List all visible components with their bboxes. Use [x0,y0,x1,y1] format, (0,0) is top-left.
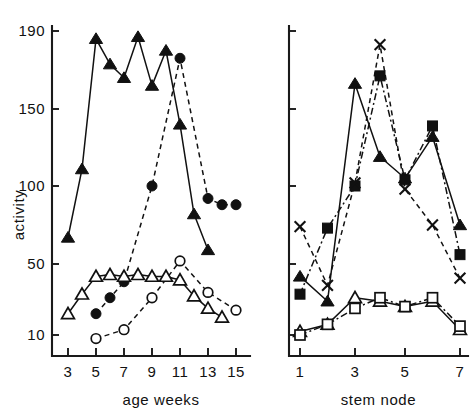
data-point-filled-triangle [293,270,306,281]
data-point-open-triangle [349,292,362,303]
data-point-filled-circle [91,309,101,319]
right-series-markers-filled-square [295,71,465,299]
data-point-cross [322,280,333,291]
data-point-open-square [323,319,333,329]
data-point-filled-circle [175,53,185,63]
data-point-filled-circle [147,181,157,191]
data-point-open-square [350,303,360,313]
data-point-open-triangle [104,268,117,279]
data-point-filled-triangle [131,31,144,42]
left-y-tick-label: 10 [27,326,45,343]
data-point-open-triangle [132,268,145,279]
right-series-markers-open-square [295,293,465,340]
data-point-filled-triangle [159,45,172,56]
data-point-filled-square [375,71,385,81]
left-y-tick-label: 190 [18,22,45,39]
data-point-filled-triangle [187,208,200,219]
left-x-axis-title: age weeks [122,391,199,408]
left-x-tick-label: 7 [120,363,129,380]
right-x-tick-label: 5 [401,363,410,380]
data-point-filled-triangle [75,163,88,174]
left-x-tick-label: 11 [172,363,189,380]
left-x-tick-label: 5 [92,363,101,380]
data-point-filled-triangle [348,78,361,89]
left-x-tick-label: 13 [199,363,217,380]
left-x-tick-label: 3 [64,363,73,380]
data-point-open-triangle [62,308,75,319]
data-point-filled-triangle [201,244,214,255]
data-point-open-circle [119,325,129,335]
data-point-filled-circle [105,293,115,303]
data-point-filled-square [323,223,333,233]
data-point-cross [427,220,438,231]
data-point-open-square [295,330,305,340]
data-point-filled-triangle [373,151,386,162]
data-point-filled-triangle [173,118,186,129]
data-point-cross [455,273,466,284]
data-point-filled-triangle [453,219,466,230]
chart-figure: activity 10501001501903579111315age week… [0,0,473,416]
left-y-tick-label: 150 [18,100,45,117]
right-x-tick-label: 3 [351,363,360,380]
data-point-filled-square [428,121,438,131]
left-series-line-filled-triangle [68,37,208,250]
data-point-filled-triangle [89,33,102,44]
data-point-filled-circle [203,193,213,203]
right-series-line-filled-square [300,76,460,294]
data-point-filled-square [400,175,410,185]
right-x-tick-label: 7 [456,363,465,380]
data-point-filled-square [455,250,465,260]
y-axis-label-group: activity [10,190,27,241]
data-point-open-circle [203,288,213,298]
chart-svg: activity 10501001501903579111315age week… [0,0,473,416]
data-point-open-circle [175,256,185,266]
data-point-filled-circle [231,200,241,210]
data-point-open-square [400,302,410,312]
data-point-filled-triangle [103,58,116,69]
data-point-filled-circle [217,200,227,210]
right-panel: 1357stem node [289,26,468,408]
right-x-axis-title: stem node [341,391,416,408]
right-series-line-filled-triangle [300,84,460,302]
data-point-open-square [455,321,465,331]
left-y-tick-label: 50 [27,255,45,272]
data-point-filled-triangle [61,231,74,242]
left-panel: 10501001501903579111315age weeks [18,22,250,408]
right-series-markers-filled-triangle [293,78,466,306]
data-point-filled-triangle [145,80,158,91]
y-axis-label: activity [10,190,27,241]
data-point-open-circle [91,334,101,344]
right-x-tick-label: 1 [296,363,305,380]
data-point-cross [295,221,306,232]
left-x-tick-label: 9 [148,363,157,380]
data-point-filled-square [295,289,305,299]
left-x-tick-label: 15 [227,363,245,380]
data-point-open-square [428,293,438,303]
data-point-open-triangle [216,311,229,322]
data-point-open-circle [147,293,157,303]
left-y-tick-label: 100 [18,177,45,194]
data-point-open-circle [231,305,241,315]
data-point-open-square [375,293,385,303]
